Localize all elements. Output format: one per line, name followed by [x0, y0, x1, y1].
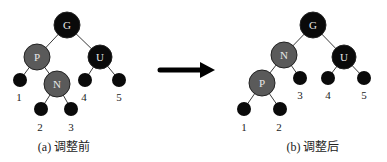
svg-text:U: U	[340, 51, 348, 63]
leaf-5: 5	[357, 71, 371, 101]
node-n: N	[44, 71, 70, 97]
svg-text:4: 4	[325, 89, 331, 101]
leaf-2: 2	[273, 102, 287, 133]
caption-before: (a) 调整前	[38, 139, 90, 154]
svg-text:P: P	[259, 77, 265, 89]
leaf-3: 3	[293, 71, 307, 101]
svg-text:2: 2	[276, 121, 282, 133]
svg-text:5: 5	[361, 89, 367, 101]
leaf-4: 4	[78, 73, 92, 103]
node-p: P	[24, 44, 50, 70]
leaf-1: 1	[237, 102, 251, 133]
node-g: G	[54, 12, 80, 38]
rotation-diagram: G P U N 1 4 5 2	[0, 0, 387, 162]
leaf-1: 1	[13, 73, 27, 103]
right-arrow-icon	[160, 62, 215, 78]
svg-text:1: 1	[241, 121, 247, 133]
leaf-5: 5	[112, 73, 126, 103]
node-u: U	[88, 45, 112, 69]
caption-after: (b) 调整后	[287, 139, 340, 154]
node-n: N	[271, 42, 297, 68]
leaf-2: 2	[34, 102, 48, 133]
leaf-4: 4	[321, 71, 335, 101]
svg-text:3: 3	[68, 121, 74, 133]
svg-text:4: 4	[81, 91, 87, 103]
svg-text:G: G	[63, 19, 71, 31]
svg-text:G: G	[309, 19, 317, 31]
node-p: P	[249, 70, 275, 96]
svg-text:N: N	[280, 49, 288, 61]
node-g: G	[300, 12, 326, 38]
leaf-3: 3	[64, 102, 78, 133]
tree-before: G P U N 1 4 5 2	[13, 12, 126, 154]
svg-text:5: 5	[116, 91, 122, 103]
tree-after: G N U P 3 4 5 1	[237, 12, 371, 154]
svg-text:3: 3	[297, 89, 303, 101]
svg-text:1: 1	[16, 91, 22, 103]
svg-text:P: P	[34, 51, 40, 63]
node-u: U	[332, 45, 356, 69]
svg-text:2: 2	[37, 121, 43, 133]
svg-text:U: U	[96, 51, 104, 63]
svg-text:N: N	[53, 78, 61, 90]
